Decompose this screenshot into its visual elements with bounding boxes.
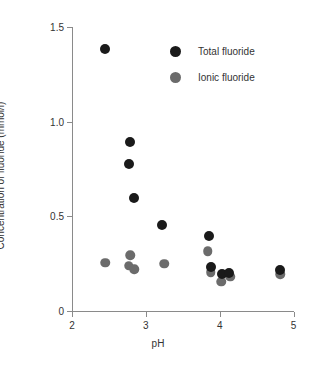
y-tick-label: 1.0 [50,116,64,127]
x-tick-label: 5 [291,320,297,331]
legend-label-total: Total fluoride [198,46,255,57]
x-axis-title: pH [0,338,316,349]
legend-marker-icon-total [170,46,181,57]
data-point-ionic [160,259,170,269]
x-tick-mark [146,312,147,317]
y-axis-line [72,27,73,312]
y-tick-label: 0.5 [50,211,64,222]
y-axis-title: Concentration of fluoride (mmol/l) [0,102,6,250]
y-tick-label: 1.5 [50,22,64,33]
x-tick-label: 3 [143,320,149,331]
data-point-ionic [203,247,213,257]
x-tick-mark [72,312,73,317]
data-point-total [124,159,134,169]
data-point-ionic [129,265,139,275]
data-point-total [204,231,214,241]
data-point-total [129,193,139,203]
legend-label-ionic: Ionic fluoride [198,72,255,83]
data-point-total [224,268,234,278]
y-tick-mark [67,27,72,28]
legend-item-total-fluoride: Total fluoride [170,38,255,64]
chart-legend: Total fluoride Ionic fluoride [170,38,255,90]
data-point-total [275,265,285,275]
x-tick-label: 2 [69,320,75,331]
x-tick-mark [220,312,221,317]
x-axis-line [72,311,294,312]
data-point-total [157,220,167,230]
y-tick-mark [67,122,72,123]
x-tick-mark [294,312,295,317]
x-tick-label: 4 [217,320,223,331]
data-point-total [125,137,135,147]
y-tick-label: 0 [58,306,64,317]
data-point-ionic [100,258,110,268]
data-point-total [100,44,110,54]
data-point-total [206,262,216,272]
data-point-ionic [126,250,136,260]
legend-marker-icon-ionic [170,72,181,83]
legend-item-ionic-fluoride: Ionic fluoride [170,64,255,90]
scatter-chart: 00.51.01.5 2345 Total fluoride Ionic flu… [0,0,316,365]
y-tick-mark [67,216,72,217]
